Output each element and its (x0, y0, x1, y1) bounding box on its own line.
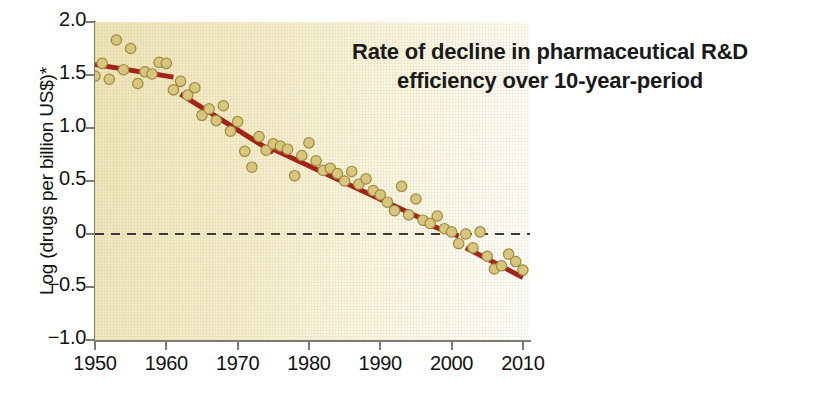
chart-title-line-1: Rate of decline in pharmaceutical R&D (300, 38, 800, 67)
data-point (311, 156, 321, 166)
y-tick-mark (86, 286, 95, 288)
data-point (432, 211, 442, 221)
data-point (347, 166, 357, 176)
data-point (104, 74, 114, 84)
data-point (361, 174, 371, 184)
data-point (289, 171, 299, 181)
y-tick-label: 1.5 (0, 61, 86, 84)
data-point (95, 71, 100, 81)
x-tick-mark (165, 341, 167, 350)
data-point (218, 101, 228, 111)
y-tick-label: 1.0 (0, 114, 86, 137)
chart-figure: Log (drugs per billion US$)* 2.01.51.00.… (0, 0, 826, 397)
data-point (211, 115, 221, 125)
data-point (111, 35, 121, 45)
y-tick-label: −1.0 (0, 326, 86, 349)
y-tick-label: −0.5 (0, 273, 86, 296)
x-tick-mark (308, 341, 310, 350)
data-point (382, 197, 392, 207)
data-point (468, 243, 478, 253)
data-point (225, 126, 235, 136)
data-point (511, 256, 521, 266)
data-point (254, 131, 264, 141)
chart-title-line-2: efficiency over 10-year-period (300, 67, 800, 96)
data-point (168, 85, 178, 95)
data-point (453, 238, 463, 248)
y-tick-label: 0 (0, 220, 86, 243)
data-point (396, 181, 406, 191)
data-point (496, 261, 506, 271)
x-tick-mark (94, 341, 96, 350)
data-point (190, 83, 200, 93)
y-tick-mark (86, 180, 95, 182)
data-point (411, 194, 421, 204)
x-tick-mark (451, 341, 453, 350)
y-tick-label: 0.5 (0, 167, 86, 190)
x-tick-mark (379, 341, 381, 350)
data-point (125, 43, 135, 53)
data-point (282, 144, 292, 154)
data-point (232, 116, 242, 126)
data-point (297, 150, 307, 160)
data-point (304, 138, 314, 148)
data-point (461, 229, 471, 239)
data-point (482, 251, 492, 261)
data-point (446, 227, 456, 237)
y-tick-mark (86, 74, 95, 76)
data-point (404, 210, 414, 220)
data-point (133, 78, 143, 88)
y-tick-mark (86, 21, 95, 23)
data-point (97, 58, 107, 68)
chart-title: Rate of decline in pharmaceutical R&D ef… (300, 38, 800, 95)
x-axis-line (94, 340, 531, 342)
data-point (339, 176, 349, 186)
data-point (240, 146, 250, 156)
data-point (518, 265, 528, 275)
y-tick-label: 2.0 (0, 8, 86, 31)
data-point (475, 227, 485, 237)
data-point (389, 205, 399, 215)
data-point (175, 76, 185, 86)
data-point (118, 65, 128, 75)
y-tick-mark (86, 127, 95, 129)
data-point (247, 162, 257, 172)
x-tick-mark (237, 341, 239, 350)
y-tick-mark (86, 233, 95, 235)
data-point (204, 104, 214, 114)
data-point (161, 58, 171, 68)
data-point (147, 69, 157, 79)
x-tick-mark (522, 341, 524, 350)
x-tick-label: 2010 (478, 352, 568, 375)
